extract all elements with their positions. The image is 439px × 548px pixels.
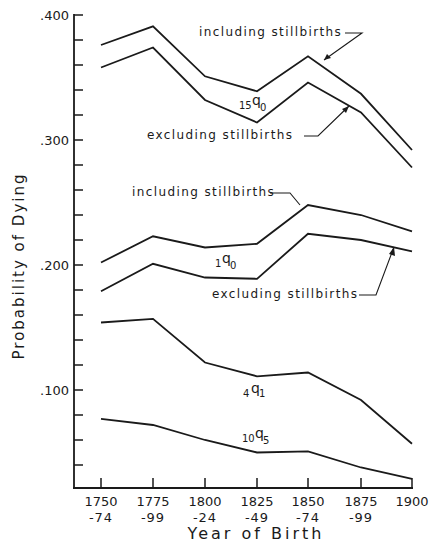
- y-axis-title: Probability of Dying: [10, 173, 28, 360]
- svg-text:0: 0: [260, 102, 266, 113]
- label-15q0-including: including stillbirths: [199, 25, 342, 39]
- x-tick-sublabel: -74: [89, 510, 113, 525]
- series-line: [101, 205, 412, 263]
- x-tick-label: 1875: [344, 494, 377, 509]
- x-tick-label: 1800: [188, 494, 221, 509]
- x-tick-label: 1750: [84, 494, 117, 509]
- x-tick-label: 1850: [291, 494, 324, 509]
- y-tick-label: .200: [40, 258, 69, 273]
- x-tick-label: 1825: [240, 494, 273, 509]
- label-1q0-excluding: excluding stillbirths: [212, 287, 358, 301]
- svg-text:10: 10: [242, 433, 255, 444]
- y-axis: .400.300.200.100: [40, 8, 83, 489]
- y-tick-label: .100: [40, 383, 69, 398]
- y-tick-label: .400: [40, 8, 69, 23]
- x-tick-sublabel: -99: [349, 510, 373, 525]
- x-tick-label: 1775: [136, 494, 169, 509]
- svg-text:15: 15: [239, 100, 252, 111]
- x-tick-sublabel: -24: [193, 510, 217, 525]
- svg-text:5: 5: [263, 435, 269, 446]
- series-line: [101, 234, 412, 291]
- x-axis-title: Year of Birth: [187, 524, 325, 543]
- label-1q0: 1 q 0: [215, 250, 236, 271]
- x-tick-sublabel: -49: [245, 510, 269, 525]
- x-axis: 1750-741775-991800-241825-491850-741875-…: [73, 478, 429, 525]
- y-tick-label: .300: [40, 133, 69, 148]
- svg-text:1: 1: [259, 388, 265, 399]
- label-1q0-including: including stillbirths: [132, 185, 275, 199]
- label-15q0-excluding: excluding stillbirths: [147, 128, 293, 142]
- mortality-line-chart: .400.300.200.100 1750-741775-991800-2418…: [0, 0, 439, 548]
- annotation-leaders: [270, 33, 395, 295]
- label-10q5: 10 q 5: [242, 425, 269, 446]
- x-tick-sublabel: -74: [296, 510, 320, 525]
- svg-text:4: 4: [243, 388, 249, 399]
- x-tick-sublabel: -99: [141, 510, 165, 525]
- svg-text:0: 0: [230, 260, 236, 271]
- svg-text:1: 1: [215, 258, 221, 269]
- label-15q0: 15 q 0: [239, 92, 266, 113]
- label-4q1: 4 q 1: [243, 380, 265, 399]
- x-tick-label: 1900: [395, 494, 428, 509]
